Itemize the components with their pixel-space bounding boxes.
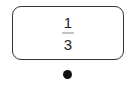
fraction-denominator: 3	[63, 37, 73, 52]
fraction: 1 3	[62, 15, 74, 52]
fraction-numerator: 1	[63, 15, 73, 30]
fraction-bar	[62, 33, 74, 34]
fraction-card: 1 3	[12, 6, 124, 60]
dot-icon	[63, 70, 72, 79]
